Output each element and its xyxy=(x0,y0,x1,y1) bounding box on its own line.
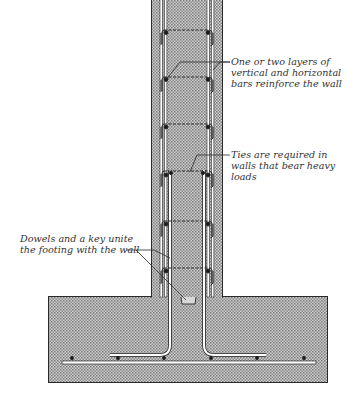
label-ties: Ties are required in walls that bear hea… xyxy=(231,150,335,182)
label-dowels: Dowels and a key unite the footing with … xyxy=(20,234,139,256)
label-line: walls that bear heavy xyxy=(231,161,335,172)
label-line: loads xyxy=(231,172,335,183)
label-reinforcing-layers: One or two layers of vertical and horizo… xyxy=(231,57,342,89)
label-line: vertical and horizontal xyxy=(231,68,342,79)
label-line: bars reinforce the wall xyxy=(231,79,342,90)
key xyxy=(181,297,196,304)
label-line: the footing with the wall xyxy=(20,245,139,256)
footing xyxy=(49,297,328,383)
